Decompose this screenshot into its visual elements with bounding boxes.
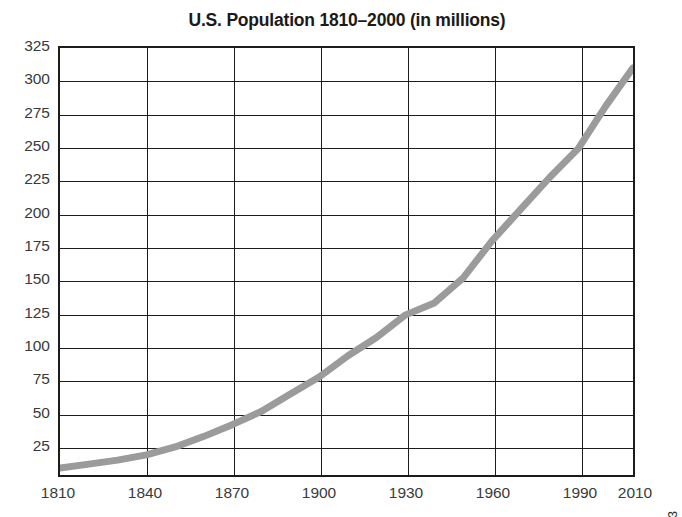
y-tick-label: 125 <box>2 304 50 322</box>
y-axis-tick-labels: 255075100125150175200225250275300325 <box>0 46 50 477</box>
x-tick-label: 1840 <box>128 484 162 502</box>
y-tick-label: 75 <box>2 370 50 388</box>
population-line-series <box>60 48 633 475</box>
x-tick-label: 1900 <box>302 484 336 502</box>
population-line-path <box>60 68 633 468</box>
population-line-chart: U.S. Population 1810–2000 (in millions) … <box>0 0 682 517</box>
y-tick-label: 300 <box>2 70 50 88</box>
chart-title: U.S. Population 1810–2000 (in millions) <box>58 10 636 31</box>
y-tick-label: 25 <box>2 437 50 455</box>
source-credit: Business Week, December 15, 2003 <box>666 511 680 517</box>
x-tick-label: 2010 <box>618 484 652 502</box>
y-tick-label: 100 <box>2 337 50 355</box>
x-tick-label: 1870 <box>215 484 249 502</box>
y-tick-label: 50 <box>2 404 50 422</box>
x-axis-tick-labels: 18101840187019001930196019902010 <box>0 484 682 510</box>
x-tick-label: 1990 <box>563 484 597 502</box>
x-tick-label: 1810 <box>41 484 75 502</box>
y-tick-label: 250 <box>2 137 50 155</box>
y-tick-label: 150 <box>2 270 50 288</box>
x-tick-label: 1960 <box>476 484 510 502</box>
y-tick-label: 200 <box>2 204 50 222</box>
y-tick-label: 225 <box>2 170 50 188</box>
y-tick-label: 275 <box>2 104 50 122</box>
plot-area <box>58 46 635 477</box>
y-tick-label: 325 <box>2 37 50 55</box>
x-tick-label: 1930 <box>389 484 423 502</box>
y-tick-label: 175 <box>2 237 50 255</box>
